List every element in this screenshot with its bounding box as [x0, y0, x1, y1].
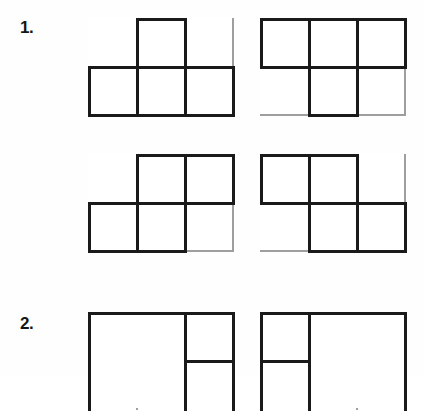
- grid-edge-dark: [356, 250, 407, 253]
- grid-cell: [184, 66, 232, 114]
- grid-edge-dark: [88, 250, 139, 253]
- grid-cell: [308, 202, 356, 250]
- grid-cell: [184, 360, 232, 408]
- grid-cell: [308, 66, 356, 114]
- grid-cell: [308, 312, 356, 360]
- grid-edge-dark: [308, 66, 359, 69]
- grid-edge-dark: [232, 312, 235, 363]
- grid-edge-dark: [356, 66, 359, 117]
- grid-cell: [136, 18, 184, 66]
- grid-edge-dark: [184, 202, 187, 253]
- figure-1c: [88, 154, 235, 253]
- grid-edge-dark: [356, 18, 359, 69]
- grid-edge-dark: [308, 154, 359, 157]
- grid-cell: [356, 202, 404, 250]
- grid-edge-dark: [184, 312, 187, 363]
- grid-cell: [136, 202, 184, 250]
- grid-edge-dark: [404, 360, 407, 411]
- grid-edge-dark: [136, 154, 139, 205]
- grid-edge-dark: [308, 360, 311, 411]
- grid-edge-dark: [136, 114, 187, 117]
- grid-edge-dark: [260, 202, 311, 205]
- grid-cell: [308, 360, 356, 408]
- grid-cell: [136, 66, 184, 114]
- grid-cell: [260, 360, 308, 408]
- grid-edge-light: [260, 114, 310, 116]
- grid-edge-dark: [184, 154, 235, 157]
- grid-2a: [88, 312, 235, 411]
- grid-edge-dark: [136, 250, 187, 253]
- grid-edge-dark: [88, 312, 139, 315]
- grid-edge-dark: [136, 66, 187, 69]
- grid-edge-light: [232, 18, 234, 68]
- grid-cell: [88, 360, 136, 408]
- grid-edge-dark: [88, 66, 91, 117]
- grid-edge-dark: [356, 66, 407, 69]
- grid-cell: [136, 312, 184, 360]
- grid-edge-dark: [136, 154, 187, 157]
- figure-1b: [260, 18, 407, 117]
- grid-edge-dark: [88, 202, 139, 205]
- grid-edge-dark: [404, 202, 407, 253]
- grid-cell: [356, 360, 404, 408]
- grid-edge-dark: [232, 154, 235, 205]
- grid-edge-dark: [260, 18, 263, 69]
- grid-edge-dark: [184, 18, 187, 69]
- grid-cell: [136, 360, 184, 408]
- grid-cell: [184, 202, 232, 250]
- grid-cell: [260, 202, 308, 250]
- grid-edge-dark: [88, 114, 139, 117]
- grid-1b: [260, 18, 407, 117]
- grid-edge-dark: [356, 312, 407, 315]
- grid-edge-dark: [308, 18, 311, 69]
- grid-cell: [260, 154, 308, 202]
- grid-cell: [356, 66, 404, 114]
- grid-1d: [260, 154, 407, 253]
- grid-edge-light: [356, 114, 406, 116]
- grid-edge-dark: [136, 202, 187, 205]
- figure-2a: [88, 312, 235, 411]
- grid-edge-light: [404, 66, 406, 116]
- grid-edge-dark: [404, 312, 407, 363]
- grid-cell: [88, 154, 136, 202]
- grid-edge-dark: [136, 18, 187, 21]
- grid-edge-dark: [356, 202, 359, 253]
- grid-edge-dark: [136, 202, 139, 253]
- grid-edge-dark: [260, 154, 311, 157]
- grid-edge-dark: [136, 66, 139, 117]
- grid-cell: [260, 66, 308, 114]
- grid-cell: [308, 18, 356, 66]
- grid-edge-dark: [308, 202, 359, 205]
- figure-1d: [260, 154, 407, 253]
- grid-cell: [88, 18, 136, 66]
- grid-edge-dark: [260, 154, 263, 205]
- grid-cell: [184, 154, 232, 202]
- grid-edge-dark: [184, 202, 235, 205]
- problem-2-number: 2.: [20, 314, 33, 334]
- grid-1c: [88, 154, 235, 253]
- grid-2b: [260, 312, 407, 411]
- grid-1a: [88, 18, 235, 117]
- grid-cell: [260, 18, 308, 66]
- grid-edge-dark: [184, 312, 235, 315]
- figure-1a: [88, 18, 235, 117]
- grid-cell: [88, 202, 136, 250]
- grid-cell: [356, 154, 404, 202]
- grid-edge-dark: [136, 312, 187, 315]
- grid-edge-dark: [260, 360, 311, 363]
- grid-edge-dark: [308, 312, 311, 363]
- grid-edge-light: [404, 154, 406, 204]
- grid-cell: [308, 154, 356, 202]
- grid-edge-light: [260, 250, 310, 252]
- grid-cell: [88, 66, 136, 114]
- grid-edge-dark: [356, 154, 359, 205]
- grid-edge-dark: [232, 66, 235, 117]
- grid-cell: [356, 312, 404, 360]
- grid-cell: [260, 312, 308, 360]
- grid-edge-dark: [184, 66, 235, 69]
- grid-edge-dark: [308, 66, 311, 117]
- grid-edge-dark: [260, 66, 311, 69]
- grid-edge-dark: [260, 312, 311, 315]
- grid-edge-dark: [136, 18, 139, 69]
